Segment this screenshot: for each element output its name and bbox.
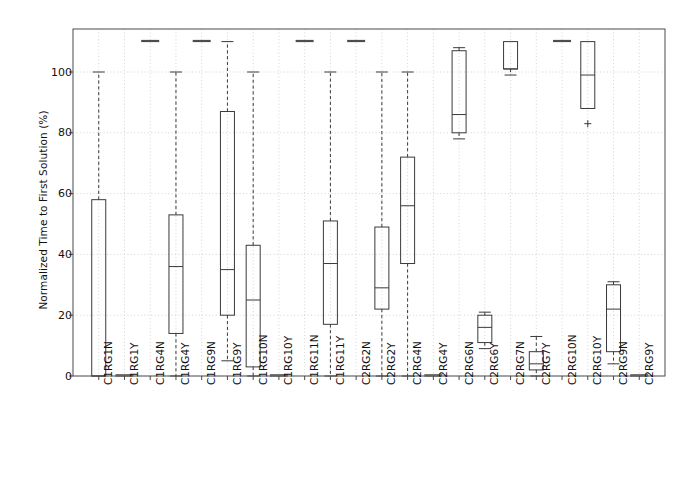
y-tick-labels: 020406080100 bbox=[38, 0, 72, 483]
y-tick-label: 0 bbox=[38, 371, 72, 382]
box-plot-figure: Normalized Time to First Solution (%) 02… bbox=[0, 0, 688, 483]
box-plot-C1RG9Y bbox=[220, 42, 234, 361]
box-plot-C1RG9N bbox=[193, 40, 211, 41]
y-tick-label: 80 bbox=[38, 127, 72, 138]
box-body bbox=[375, 227, 389, 309]
plot-canvas bbox=[0, 0, 688, 483]
box-plot-C2RG9N bbox=[607, 282, 621, 364]
box-body bbox=[529, 352, 543, 370]
axes-frame bbox=[73, 29, 665, 376]
box-plot-C2RG2N bbox=[347, 40, 365, 41]
y-axis-label-container: Normalized Time to First Solution (%) bbox=[16, 60, 34, 360]
box-plot-C2RG6Y bbox=[478, 312, 492, 348]
box-plot-C1RG1N bbox=[92, 72, 106, 376]
box-plot-C1RG11N bbox=[296, 40, 314, 41]
box-plot-C1RG4N bbox=[141, 40, 159, 41]
y-tick-label: 100 bbox=[38, 67, 72, 78]
box-body bbox=[504, 42, 518, 69]
y-tick-label: 20 bbox=[38, 310, 72, 321]
box-plot-C1RG10N bbox=[246, 72, 260, 376]
y-tick-label: 60 bbox=[38, 188, 72, 199]
y-tick-label: 40 bbox=[38, 249, 72, 260]
box-plot-C2RG10N bbox=[553, 40, 571, 41]
